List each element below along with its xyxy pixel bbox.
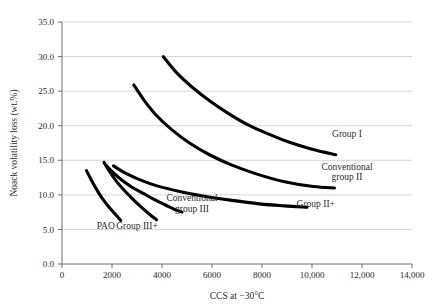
- series-label-group-iii-: Group III+: [116, 221, 158, 231]
- y-tick-label-35.0: 35.0: [38, 17, 54, 27]
- series-label-conventional-group-ii: Conventionalgroup II: [321, 162, 373, 183]
- curve-conventional-group-ii: [134, 85, 335, 188]
- curve-group-i: [163, 57, 336, 155]
- x-tick-label-10,000: 10,000: [300, 270, 325, 280]
- y-tick-label-10.0: 10.0: [38, 190, 54, 200]
- x-tick-label-14,000: 14,000: [400, 270, 425, 280]
- y-tick-label-5.0: 5.0: [43, 225, 55, 235]
- y-tick-label-0.0: 0.0: [43, 259, 55, 269]
- x-tick-label-0: 0: [60, 270, 65, 280]
- y-tick-label-20.0: 20.0: [38, 121, 54, 131]
- noack-volatility-line-chart: 0.05.010.015.020.025.030.035.0 020004000…: [0, 0, 441, 308]
- y-tick-label-25.0: 25.0: [38, 86, 54, 96]
- x-axis-tick-labels: 0200040006000800010,00012,00014,000: [60, 270, 425, 280]
- x-tick-label-12,000: 12,000: [350, 270, 375, 280]
- series-label-group-i: Group I: [332, 129, 362, 139]
- y-axis-tick-labels: 0.05.010.015.020.025.030.035.0: [38, 17, 54, 269]
- x-tick-label-2000: 2000: [103, 270, 122, 280]
- series-label-pao: PAO: [97, 221, 115, 231]
- x-tick-label-8000: 8000: [253, 270, 272, 280]
- y-tick-label-15.0: 15.0: [38, 155, 54, 165]
- chart-container: 0.05.010.015.020.025.030.035.0 020004000…: [0, 0, 441, 308]
- series-label-group-ii-: Group II+: [297, 199, 335, 209]
- x-tick-label-4000: 4000: [153, 270, 172, 280]
- gridlines: [62, 22, 412, 229]
- series-label-conventional-group-iii: Conventionalgroup III: [166, 193, 218, 214]
- x-axis-title: CCS at −30°C: [210, 291, 265, 301]
- y-tick-label-30.0: 30.0: [38, 52, 54, 62]
- y-axis-title: Noack volatility loss (wt.%): [9, 89, 20, 196]
- x-tick-label-6000: 6000: [203, 270, 222, 280]
